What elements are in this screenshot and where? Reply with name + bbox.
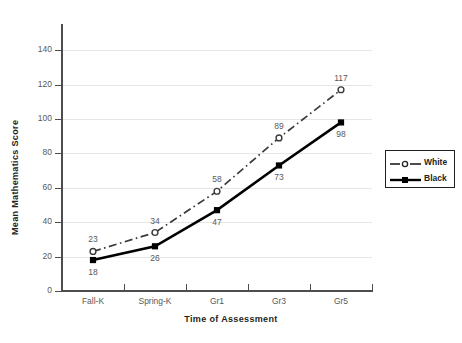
y-axis-title: Mean Mathematics Score xyxy=(6,92,24,262)
data-point-marker xyxy=(90,257,96,263)
data-point-label: 18 xyxy=(88,267,97,277)
data-point-label: 73 xyxy=(274,172,283,182)
data-point-label: 26 xyxy=(150,253,159,263)
legend-swatch-solid-square-icon xyxy=(389,172,422,184)
data-point-marker xyxy=(152,243,158,249)
data-point-marker xyxy=(214,188,220,194)
data-point-marker xyxy=(276,135,282,141)
data-point-label: 58 xyxy=(212,174,221,184)
legend-item-black: Black xyxy=(386,170,454,186)
data-point-marker xyxy=(338,87,344,93)
data-point-marker xyxy=(276,162,282,168)
data-point-label: 23 xyxy=(88,234,97,244)
data-point-marker xyxy=(90,249,96,255)
legend-label-black: Black xyxy=(424,173,447,183)
legend-swatch-dashdot-circle-icon xyxy=(389,156,422,168)
data-point-label: 117 xyxy=(334,73,348,83)
data-point-marker xyxy=(152,230,158,236)
data-point-label: 89 xyxy=(274,121,283,131)
legend-label-white: White xyxy=(424,157,447,167)
data-point-marker xyxy=(214,207,220,213)
data-point-label: 47 xyxy=(212,217,221,227)
series-line-white xyxy=(93,90,341,252)
data-point-label: 34 xyxy=(150,216,159,226)
data-point-marker xyxy=(338,119,344,125)
legend: White Black xyxy=(385,150,455,188)
legend-item-white: White xyxy=(386,154,454,170)
data-point-label: 98 xyxy=(336,129,345,139)
x-axis-title: Time of Assessment xyxy=(0,314,462,324)
mean-mathematics-score-line-chart: 020406080100120140 Fall-KSpring-KGr1Gr3G… xyxy=(0,0,462,343)
